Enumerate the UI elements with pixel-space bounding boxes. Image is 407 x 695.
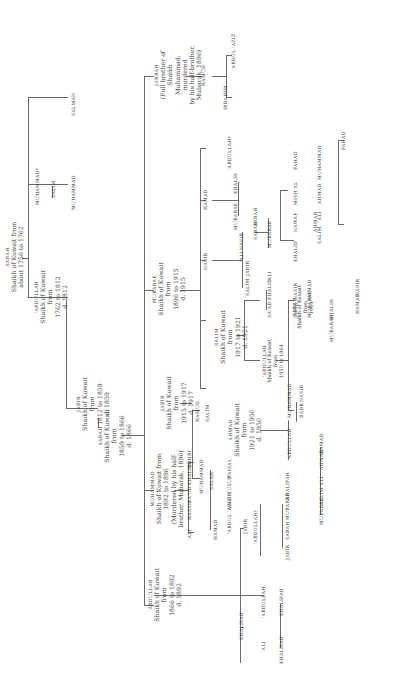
node-abdul-aziz-j: 'ABDUL 'AZIZ (232, 34, 237, 70)
connector (212, 260, 242, 261)
leaf-name: HAMAD (320, 433, 325, 454)
connector (200, 148, 201, 388)
node-abdullah-i: 'ABDULLAH Shaikh of Kuwait from 1762 to … (34, 262, 68, 332)
leaf-name: JABIR (246, 261, 251, 276)
node-nasir-m: NASIR (204, 253, 209, 270)
node-sabah-i: SABAH Shaikh of Kuwait from about 1756 t… (5, 218, 25, 296)
connector (260, 430, 288, 431)
leaf-name: 'ALI (320, 476, 325, 487)
leaf-name: 'ALI (318, 211, 323, 222)
connector (338, 140, 339, 224)
node-hamud-j2: HAMUD (196, 401, 201, 422)
leaf-name: KHALID (268, 279, 273, 300)
node-ibrahim: IBRAHIM (224, 85, 229, 110)
leaf-name: MUHAMMAD (318, 145, 323, 180)
leaf-name: NAWAF (294, 212, 299, 232)
leaf-name: 'ALI (240, 251, 245, 262)
leaf-name: 'ABDULLAH (262, 586, 267, 618)
leaf-name: FAISAL (228, 459, 233, 478)
leaf-name: YUSUF (228, 475, 233, 494)
leaf-name: NASIR (300, 385, 305, 402)
connector (244, 300, 260, 301)
connector (144, 76, 154, 77)
node-muhammad-a: MUHAMMAD (72, 175, 77, 210)
leaf-name: HAMAD (308, 279, 313, 300)
connector (212, 200, 238, 201)
connector (200, 388, 206, 389)
node-muhammad-star: MUHAMMAD* (36, 168, 41, 205)
node-hamad-m: HAMAD (204, 189, 209, 210)
family-tree-diagram: SABAH Shaikh of Kuwait from about 1756 t… (0, 0, 407, 695)
leaf-name: NASIR (294, 283, 299, 300)
leaf-name: SABAH (254, 207, 259, 226)
leaf-name: SALIM (246, 278, 251, 296)
leaf-name: KHALIFAH (280, 588, 285, 616)
connector (280, 190, 288, 191)
connector (280, 190, 281, 240)
connector (212, 76, 226, 77)
leaf-name: MISH'AL (294, 182, 299, 205)
leaf-name: 'ABDULLAH† (254, 510, 259, 544)
node-salim-a: SALIM (52, 180, 57, 198)
leaf-name: SALIM (320, 487, 325, 505)
leaf-name: BADR (300, 403, 305, 418)
leaf-name: KHALID (294, 241, 299, 262)
node-khalid-h: KHALID (234, 173, 239, 194)
leaf-name: 'ALI (268, 271, 273, 282)
leaf-name: NASIR (228, 493, 233, 510)
leaf-name: JABIR (294, 303, 299, 318)
node-mubarak: MUBARAK Shaikh of Kuwait from 1896 to 19… (152, 254, 186, 324)
node-hamud-j: HAMUD (202, 65, 207, 86)
connector (28, 184, 68, 185)
leaf-name: KHALID (330, 299, 335, 320)
node-muhammad-ii: MUHAMMAD Shaikh of Kuwait from 1892 to 1… (150, 448, 184, 530)
connector (282, 504, 283, 548)
node-sabah-ii: SABAH Shaikh of Kuwait from 1859 to 1866… (98, 408, 132, 464)
leaf-name: HAMAD (356, 293, 361, 314)
node-jabir-ii: JABIR Shaikh of Kuwait from 1915 to 1917… (160, 368, 194, 438)
node-abdullah-dagger: 'ABDULLAH† (228, 136, 233, 170)
leaf-name: MUHAMMAD (200, 459, 205, 494)
leaf-name: KHALIFAH (240, 612, 245, 640)
node-abdullah-ii: 'ABDULLAH Shaikh of Kuwait from 1866 to … (148, 560, 182, 630)
leaf-name: JABIR (244, 519, 249, 534)
leaf-name: HAMAD (214, 519, 219, 540)
connector (200, 320, 206, 321)
leaf-name: 'ABDULLAH (288, 428, 293, 460)
node-salim-j2: SALIM (206, 404, 211, 422)
leaf-name: FAHAD (342, 131, 347, 150)
connector (240, 528, 241, 663)
leaf-name: JABIR (286, 545, 291, 560)
leaf-name: SA'AD (268, 302, 273, 318)
leaf-name: SA'UD (188, 486, 193, 503)
connector (28, 97, 29, 297)
node-salim-ii: SALIM Shaikh of Kuwait from 1917 to 1921… (214, 302, 248, 372)
connector (144, 76, 145, 606)
leaf-name: SALAH (210, 472, 215, 490)
leaf-name: SABAH (286, 521, 291, 540)
leaf-name: NASIR (240, 233, 245, 250)
connector (280, 240, 288, 241)
leaf-name: 'ALI (188, 529, 193, 540)
connector (260, 504, 261, 556)
leaf-name: 'ALI (262, 641, 267, 652)
leaf-name: SALIM (318, 226, 323, 244)
leaf-name: FAHAD (294, 151, 299, 170)
node-abdullah-iii: 'ABDULLAH Shaikh of Kuwait from 1950 to … (262, 338, 285, 384)
leaf-name: KHALIFAH (280, 636, 285, 664)
leaf-name: HASAN (188, 501, 193, 520)
leaf-name: MUBARAK (268, 220, 273, 248)
node-ahmad: AHMAD Shaikh of Kuwait from 1921 to 1950… (228, 395, 262, 465)
leaf-name: NASIR (356, 279, 361, 296)
leaf-name: AHMAD (318, 183, 323, 204)
connector (200, 148, 206, 149)
connector (338, 224, 344, 225)
node-jarrah: JARRAH (Full brother of Shaikh Muhammad;… (154, 40, 202, 110)
connector (296, 402, 297, 422)
node-mubarak-h: MUBARAK (234, 202, 239, 230)
leaf-name: KHALIFAH (286, 472, 291, 500)
node-salman: SALMAN (72, 93, 77, 116)
connector (28, 97, 68, 98)
leaf-name: ADHBI (188, 450, 193, 468)
leaf-name: MUHAMMAD (288, 383, 293, 418)
